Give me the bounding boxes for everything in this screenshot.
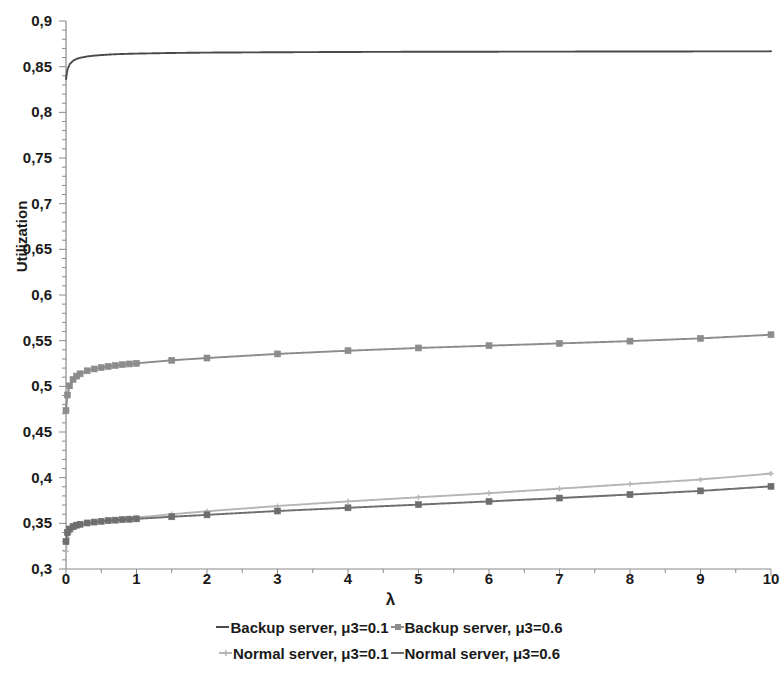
- legend-label: Backup server, μ3=0.1: [230, 619, 390, 636]
- x-tick-label: 2: [187, 571, 227, 586]
- legend-label: Backup server, μ3=0.6: [405, 619, 565, 636]
- legend-row-1: Backup server, μ3=0.1Backup server, μ3=0…: [0, 614, 781, 640]
- utilization-line-chart: Utilization 0,90,850,80,750,70,650,60,55…: [0, 0, 781, 678]
- legend-marker-cross: [223, 650, 229, 656]
- x-tick-label: 1: [117, 571, 157, 586]
- x-tick-label: 9: [681, 571, 721, 586]
- x-tick-label: 5: [399, 571, 439, 586]
- legend-item[interactable]: Backup server, μ3=0.1: [216, 619, 390, 636]
- legend-swatch: [219, 652, 232, 655]
- chart-legend: Backup server, μ3=0.1Backup server, μ3=0…: [0, 614, 781, 666]
- legend-label: Normal server, μ3=0.1: [233, 645, 391, 662]
- x-tick-label: 3: [258, 571, 298, 586]
- legend-swatch: [216, 626, 229, 629]
- x-tick-label: 10: [751, 571, 781, 586]
- legend-marker-square: [395, 624, 401, 630]
- x-tick-label: 6: [469, 571, 509, 586]
- legend-item[interactable]: Normal server, μ3=0.1: [219, 645, 391, 662]
- legend-item[interactable]: Backup server, μ3=0.6: [391, 619, 565, 636]
- legend-row-2: Normal server, μ3=0.1Normal server, μ3=0…: [0, 640, 781, 666]
- legend-label: Normal server, μ3=0.6: [405, 645, 563, 662]
- legend-swatch: [391, 652, 404, 655]
- x-tick-label: 0: [46, 571, 86, 586]
- legend-item[interactable]: Normal server, μ3=0.6: [391, 645, 563, 662]
- x-axis-title: λ: [0, 590, 781, 610]
- x-axis-tick-labels: 012345678910: [0, 0, 781, 678]
- x-tick-label: 4: [328, 571, 368, 586]
- legend-swatch: [391, 626, 404, 629]
- x-tick-label: 7: [540, 571, 580, 586]
- x-tick-label: 8: [610, 571, 650, 586]
